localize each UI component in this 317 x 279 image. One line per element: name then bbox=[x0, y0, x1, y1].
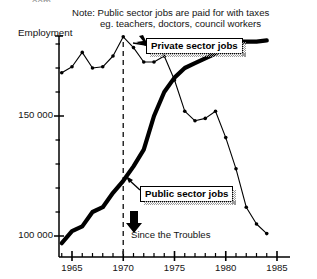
series-point bbox=[101, 65, 105, 69]
series-point bbox=[70, 65, 74, 69]
series-line bbox=[62, 40, 267, 243]
series-point bbox=[121, 35, 125, 39]
series-point bbox=[132, 46, 136, 50]
since-the-troubles-label: Since the Troubles bbox=[131, 229, 210, 240]
data-series-group bbox=[60, 35, 269, 243]
series-point bbox=[255, 222, 259, 226]
series-point bbox=[142, 60, 146, 64]
x-tick-label: 1965 bbox=[52, 262, 92, 273]
callout-shadow bbox=[150, 53, 246, 57]
series-point bbox=[203, 117, 207, 121]
series-point bbox=[80, 51, 84, 55]
series-point bbox=[91, 66, 95, 70]
series-point bbox=[111, 54, 115, 58]
series-point bbox=[234, 167, 238, 171]
x-tick-label: 1980 bbox=[206, 262, 246, 273]
axes-group bbox=[54, 36, 290, 261]
series-point bbox=[152, 60, 156, 64]
public-sector-callout-label: Public sector jobs bbox=[145, 188, 228, 199]
series-point bbox=[193, 119, 197, 123]
private-sector-callout: Private sector jobs bbox=[146, 38, 243, 54]
series-point bbox=[265, 232, 269, 236]
employment-chart-figure: oom Note: Public sector jobs are paid fo… bbox=[0, 0, 317, 279]
series-point bbox=[244, 205, 248, 209]
series-point bbox=[60, 71, 64, 75]
callout-shadow bbox=[144, 201, 236, 205]
series-point bbox=[214, 109, 218, 113]
callout-shadow-side bbox=[242, 42, 246, 56]
series-point bbox=[183, 109, 187, 113]
series-point bbox=[224, 136, 228, 140]
y-tick-label: 150 000 bbox=[2, 109, 53, 120]
x-tick-label: 1970 bbox=[103, 262, 143, 273]
public-sector-callout: Public sector jobs bbox=[140, 186, 233, 202]
x-tick-label: 1985 bbox=[257, 262, 297, 273]
y-tick-label: 100 000 bbox=[2, 229, 53, 240]
private-sector-callout-label: Private sector jobs bbox=[151, 40, 238, 51]
callout-shadow-side bbox=[232, 190, 236, 204]
x-tick-label: 1975 bbox=[155, 262, 195, 273]
callout-pointers-group bbox=[126, 35, 150, 190]
